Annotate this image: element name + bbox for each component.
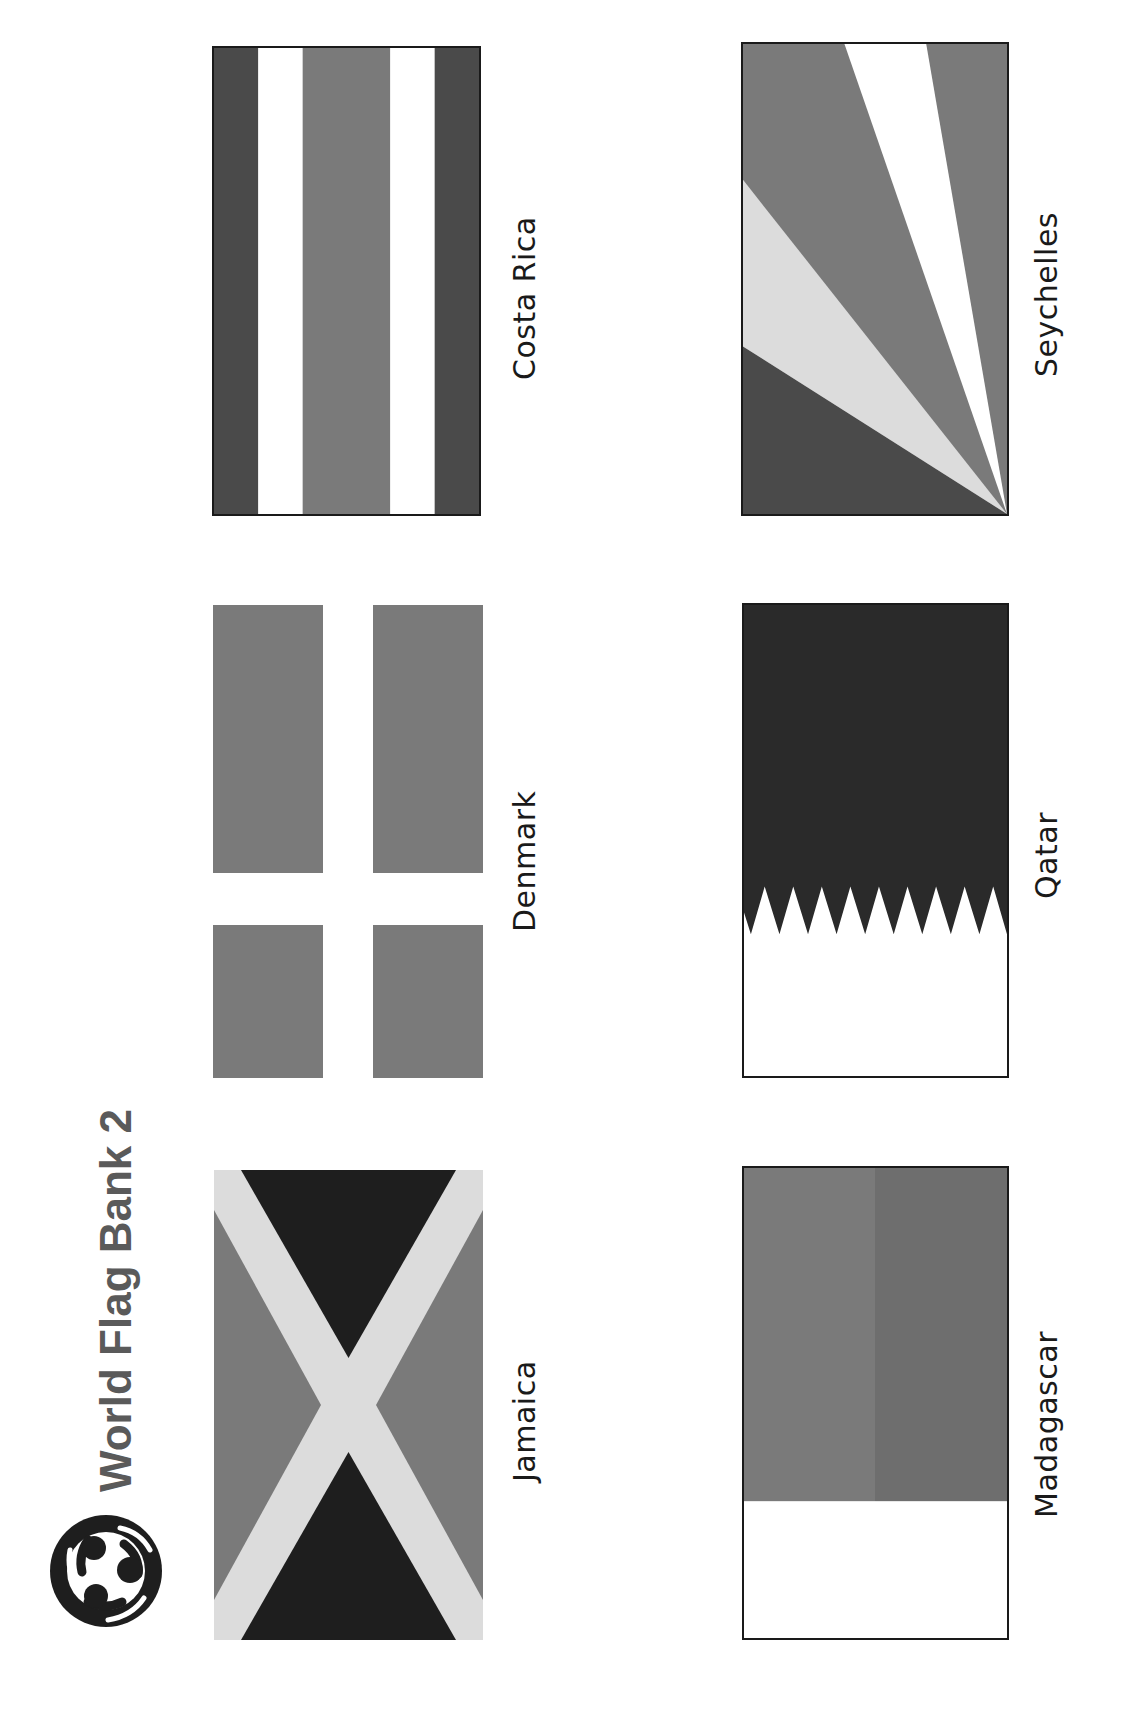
flag-label-qatar: Qatar — [1031, 812, 1063, 899]
flag-denmark — [213, 605, 483, 1078]
page-title: World Flag Bank 2 — [96, 1109, 136, 1492]
flag-label-madagascar: Madagascar — [1031, 1331, 1063, 1518]
flag-label-jamaica: Jamaica — [509, 1360, 541, 1482]
flag-label-denmark: Denmark — [509, 791, 541, 932]
flag-qatar — [742, 603, 1009, 1078]
logo — [48, 1510, 164, 1632]
flag-costa-rica — [212, 46, 481, 516]
flag-madagascar — [742, 1166, 1009, 1640]
flag-label-seychelles: Seychelles — [1031, 212, 1063, 377]
flag-label-costa-rica: Costa Rica — [509, 216, 541, 380]
flag-jamaica — [214, 1170, 483, 1640]
three-people-circle-logo-icon — [48, 1510, 164, 1632]
flag-seychelles — [741, 42, 1009, 516]
